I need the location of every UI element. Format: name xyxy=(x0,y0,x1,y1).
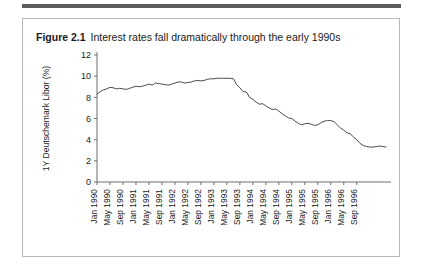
y-axis-ticks: 024681012 xyxy=(81,50,97,187)
x-tick-label: Jan 1995 xyxy=(284,189,294,224)
x-tick-label: Sep 1994 xyxy=(271,189,281,225)
chart-plot-area: 024681012 Jan 1990May 1990Sep 1990Jan 19… xyxy=(23,19,401,258)
x-tick-label: May 1991 xyxy=(141,189,151,226)
line-chart: 024681012 Jan 1990May 1990Sep 1990Jan 19… xyxy=(23,19,401,258)
page-header-rule xyxy=(22,4,401,8)
x-axis-ticks: Jan 1990May 1990Sep 1990Jan 1991May 1991… xyxy=(89,182,359,226)
y-tick-label: 12 xyxy=(81,50,91,60)
x-tick-label: Sep 1991 xyxy=(154,189,164,225)
y-axis-title: 1Y Deutschemark Libor (%) xyxy=(41,66,51,172)
x-tick-label: May 1990 xyxy=(102,189,112,226)
y-tick-label: 10 xyxy=(81,71,91,81)
x-tick-label: May 1994 xyxy=(258,189,268,226)
x-tick-label: Jan 1994 xyxy=(245,189,255,224)
x-tick-label: Jan 1991 xyxy=(128,189,138,224)
x-tick-label: Sep 1992 xyxy=(193,189,203,225)
x-tick-label: May 1992 xyxy=(180,189,190,226)
y-tick-label: 0 xyxy=(86,177,91,187)
x-tick-label: Sep 1995 xyxy=(310,189,320,225)
y-axis-label: 1Y Deutschemark Libor (%) xyxy=(41,66,51,172)
y-tick-label: 4 xyxy=(86,135,91,145)
figure-container: Figure 2.1Interest rates fall dramatical… xyxy=(22,18,400,257)
x-tick-label: Jan 1990 xyxy=(89,189,99,224)
x-tick-label: Sep 1990 xyxy=(115,189,125,225)
chart-axes xyxy=(97,52,391,182)
x-tick-label: Sep 1993 xyxy=(232,189,242,225)
x-tick-label: Jan 1993 xyxy=(206,189,216,224)
y-tick-label: 8 xyxy=(86,93,91,103)
x-tick-label: May 1993 xyxy=(219,189,229,226)
x-tick-label: Sep 1996 xyxy=(349,189,359,225)
y-tick-label: 2 xyxy=(86,156,91,166)
series-libor-line xyxy=(97,78,386,147)
x-tick-label: Jan 1996 xyxy=(323,189,333,224)
x-tick-label: May 1995 xyxy=(297,189,307,226)
y-tick-label: 6 xyxy=(86,114,91,124)
x-tick-label: May 1996 xyxy=(336,189,346,226)
x-tick-label: Jan 1992 xyxy=(167,189,177,224)
